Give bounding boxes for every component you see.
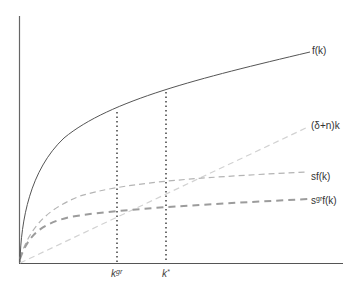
production-function-curve (20, 52, 310, 262)
depreciation-line (20, 127, 308, 263)
sgr-rest: f(k) (322, 195, 336, 206)
golden-rule-savings-label: sgrf(k) (311, 195, 337, 206)
fk-label: f(k) (312, 46, 326, 56)
savings-label: sf(k) (311, 172, 330, 182)
solow-diagram (0, 0, 359, 288)
savings-label-text: sf(k) (311, 171, 330, 182)
kgr-tick-label: kgr (111, 268, 122, 279)
depreciation-label: (δ+n)k (311, 121, 340, 131)
kstar-tick-label: k* (162, 268, 170, 279)
fk-label-text: f(k) (312, 45, 326, 56)
golden-rule-savings-curve (20, 199, 308, 259)
depreciation-label-text: (δ+n)k (311, 120, 340, 131)
kstar-sup: * (167, 268, 170, 275)
kgr-sup: gr (116, 268, 122, 275)
savings-curve (20, 172, 308, 258)
